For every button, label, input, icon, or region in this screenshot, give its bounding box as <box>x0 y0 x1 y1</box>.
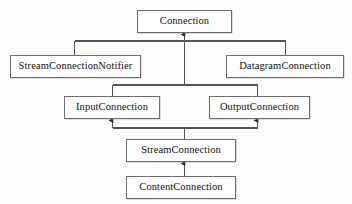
class-node-label: ContentConnection <box>137 182 224 193</box>
class-node-label: StreamConnectionNotifier <box>17 61 135 72</box>
class-node-label: Connection <box>158 16 211 27</box>
class-node-input-connection[interactable]: InputConnection <box>64 96 160 119</box>
class-node-label: DatagramConnection <box>237 61 333 72</box>
class-node-stream-connection-notifier[interactable]: StreamConnectionNotifier <box>10 55 141 78</box>
class-node-content-connection[interactable]: ContentConnection <box>126 176 236 199</box>
uml-class-diagram: Connection StreamConnectionNotifier Data… <box>0 0 352 204</box>
class-node-label: StreamConnection <box>139 145 223 156</box>
class-node-label: OutputConnection <box>218 102 301 113</box>
class-node-stream-connection[interactable]: StreamConnection <box>126 139 236 162</box>
class-node-label: InputConnection <box>74 102 150 113</box>
class-node-connection[interactable]: Connection <box>137 10 232 33</box>
class-node-output-connection[interactable]: OutputConnection <box>209 96 310 119</box>
class-node-datagram-connection[interactable]: DatagramConnection <box>226 55 344 78</box>
